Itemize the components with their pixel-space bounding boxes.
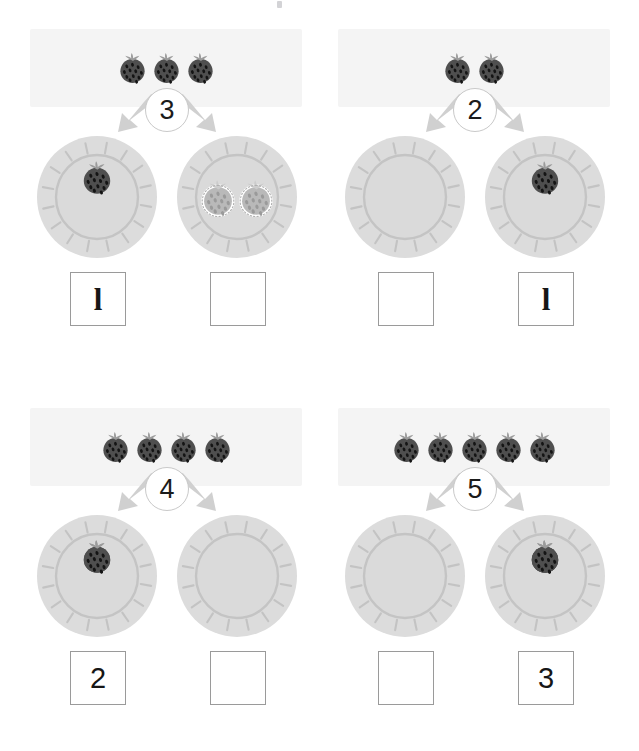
plate-berries-left: [57, 159, 137, 235]
strawberry-icon: [526, 430, 559, 464]
answer-box-left[interactable]: 2: [70, 651, 126, 705]
plate-right: [174, 134, 300, 260]
strawberry-icon: [492, 430, 525, 464]
split-group: 5: [330, 467, 620, 519]
plate-left: [34, 513, 160, 639]
plate-left: [34, 134, 160, 260]
plate-berries-left: [365, 538, 445, 614]
split-group: 4: [22, 467, 312, 519]
answer-box-right[interactable]: [210, 272, 266, 326]
answer-box-left[interactable]: [378, 272, 434, 326]
answer-row: l: [330, 272, 620, 332]
total-number-bubble: 3: [145, 88, 189, 132]
answer-box-right[interactable]: 3: [518, 651, 574, 705]
strawberry-icon: [237, 178, 275, 217]
strawberry-icon: [116, 51, 149, 85]
strawberry-icon: [79, 159, 115, 196]
strawberry-icon: [133, 430, 166, 464]
number-bond-problem: 2l: [330, 4, 620, 359]
split-group: 2: [330, 88, 620, 140]
answer-box-left[interactable]: l: [70, 272, 126, 326]
plate-berries-left: [57, 538, 137, 614]
strawberry-icon: [184, 51, 217, 85]
plate-berries-right: [505, 159, 585, 235]
strawberry-icon: [441, 51, 474, 85]
total-number-bubble: 4: [145, 467, 189, 511]
plate-berries-right: [197, 538, 277, 614]
strawberry-icon: [527, 159, 563, 196]
plate-berries-left: [365, 159, 445, 235]
answer-row: 3: [330, 651, 620, 711]
plate-right: [482, 513, 608, 639]
strawberry-icon: [199, 178, 237, 217]
strawberry-icon: [79, 538, 115, 575]
plate-berries-right: [505, 538, 585, 614]
plate-right: [174, 513, 300, 639]
plates-row: [22, 134, 312, 264]
answer-box-left[interactable]: [378, 651, 434, 705]
plate-right: [482, 134, 608, 260]
strawberry-icon: [390, 430, 423, 464]
answer-row: l: [22, 272, 312, 332]
answer-box-right[interactable]: [210, 651, 266, 705]
plate-berries-right: [197, 159, 277, 235]
strawberry-icon: [201, 430, 234, 464]
total-number-bubble: 5: [453, 467, 497, 511]
answer-box-right[interactable]: l: [518, 272, 574, 326]
strawberry-icon: [99, 430, 132, 464]
plates-row: [330, 513, 620, 643]
strawberry-icon: [167, 430, 200, 464]
answer-row: 2: [22, 651, 312, 711]
split-group: 3: [22, 88, 312, 140]
strawberry-icon: [527, 538, 563, 575]
strawberry-icon: [458, 430, 491, 464]
number-bond-problem: 3l: [22, 4, 312, 359]
worksheet-sheet: 3l2l4253: [0, 0, 639, 751]
plate-left: [342, 134, 468, 260]
total-number-bubble: 2: [453, 88, 497, 132]
plates-row: [330, 134, 620, 264]
strawberry-icon: [424, 430, 457, 464]
number-bond-problem: 53: [330, 383, 620, 738]
plate-left: [342, 513, 468, 639]
number-bond-problem: 42: [22, 383, 312, 738]
strawberry-icon: [150, 51, 183, 85]
strawberry-icon: [475, 51, 508, 85]
plates-row: [22, 513, 312, 643]
